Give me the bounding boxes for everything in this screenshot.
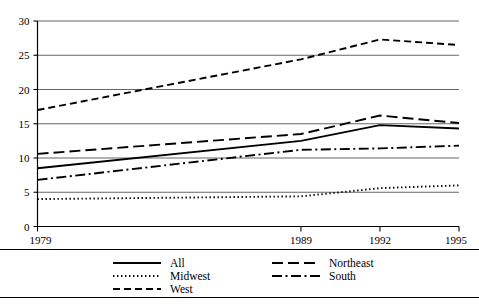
y-tick-label: 5	[24, 186, 30, 198]
line-chart: 051015202530 1979198919921995 AllMidwest…	[0, 0, 479, 304]
y-tick-label: 0	[24, 221, 30, 233]
x-tick-label: 1989	[290, 234, 313, 246]
y-tick-label: 25	[19, 49, 31, 61]
legend-label-midwest: Midwest	[170, 270, 211, 282]
x-tick-label: 1995	[445, 234, 468, 246]
legend-label-northeast: Northeast	[329, 257, 375, 269]
chart-figure: 051015202530 1979198919921995 AllMidwest…	[0, 0, 479, 304]
y-tick-label: 20	[19, 84, 31, 96]
legend-label-west: West	[170, 283, 194, 295]
legend-label-all: All	[170, 257, 185, 269]
y-tick-label: 10	[19, 152, 31, 164]
y-tick-label: 15	[19, 118, 31, 130]
legend-label-south: South	[329, 270, 356, 282]
y-tick-label: 30	[19, 15, 31, 27]
x-tick-label: 1992	[369, 234, 391, 246]
x-tick-label: 1979	[30, 234, 53, 246]
